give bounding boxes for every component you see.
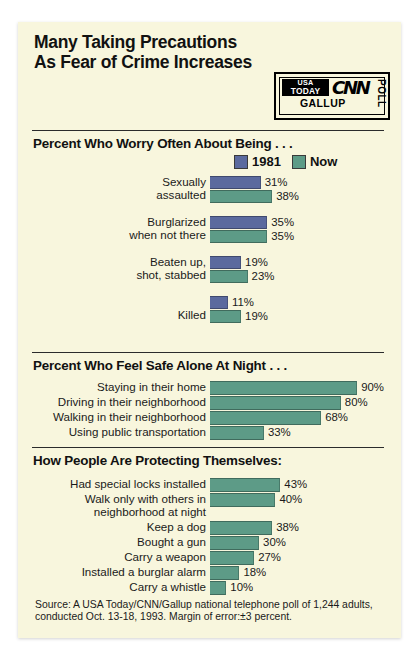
bar xyxy=(210,176,261,189)
bar-value: 80% xyxy=(345,396,368,408)
bar-label: Installed a burglar alarm xyxy=(16,566,206,579)
bar xyxy=(210,551,254,565)
legend-item-1981: 1981 xyxy=(234,154,281,169)
bar-label: Sexuallyassaulted xyxy=(16,176,206,201)
bar-label: Using public transportation xyxy=(16,426,206,439)
section-divider xyxy=(32,447,384,448)
usa-today-logo: USA TODAY xyxy=(282,79,329,96)
bar-label: Walk only with others inneighborhood at … xyxy=(16,493,206,518)
bar-value: 43% xyxy=(284,478,307,490)
poll-vertical-label: POLL xyxy=(373,77,387,110)
bar-value: 23% xyxy=(252,270,275,282)
bar-value: 31% xyxy=(265,176,288,188)
bar xyxy=(210,478,280,492)
bar-value: 33% xyxy=(268,426,291,438)
bar xyxy=(210,426,264,440)
bar-value: 30% xyxy=(263,536,286,548)
bar-label: Had special locks installed xyxy=(16,478,206,491)
source-note: Source: A USA Today/CNN/Gallup national … xyxy=(35,599,385,623)
section-heading-3: How People Are Protecting Themselves: xyxy=(33,453,282,468)
bar xyxy=(210,581,226,595)
infographic-panel: Many Taking PrecautionsAs Fear of Crime … xyxy=(18,22,401,638)
bar-value: 90% xyxy=(361,381,384,393)
bar-value: 11% xyxy=(232,296,254,308)
legend: 1981Now xyxy=(234,154,337,169)
cnn-logo: CNN xyxy=(332,77,369,98)
bar-label: Carry a whistle xyxy=(16,581,206,594)
bar-value: 27% xyxy=(258,551,281,563)
section-divider xyxy=(32,352,384,353)
bar-label: Walking in their neighborhood xyxy=(16,411,206,424)
legend-swatch-1981 xyxy=(234,155,248,169)
bar xyxy=(210,216,267,229)
bar-value: 68% xyxy=(325,411,348,423)
page-title: Many Taking PrecautionsAs Fear of Crime … xyxy=(34,32,324,72)
bar xyxy=(210,190,272,203)
bar-label: Keep a dog xyxy=(16,521,206,534)
bar-label: Burglarizedwhen not there xyxy=(16,216,206,241)
bar-label: Bought a gun xyxy=(16,536,206,549)
bar xyxy=(210,493,275,507)
bar-value: 40% xyxy=(279,493,302,505)
bar-value: 35% xyxy=(271,230,294,242)
bar xyxy=(210,566,239,580)
section-heading-1: Percent Who Worry Often About Being . . … xyxy=(33,136,293,151)
legend-label: Now xyxy=(310,154,337,169)
bar xyxy=(210,411,321,425)
bar-label: Staying in their home xyxy=(16,381,206,394)
bar-label: Killed xyxy=(16,309,206,322)
legend-item-Now: Now xyxy=(292,154,337,169)
section-heading-2: Percent Who Feel Safe Alone At Night . .… xyxy=(33,358,287,373)
usa-today-cnn-gallup-poll-logo: USA TODAY CNN GALLUP POLL xyxy=(274,72,390,120)
bar xyxy=(210,296,228,309)
legend-swatch-Now xyxy=(292,155,306,169)
legend-label: 1981 xyxy=(252,154,281,169)
bar xyxy=(210,536,259,550)
bar-value: 35% xyxy=(271,216,294,228)
bar xyxy=(210,396,341,410)
bar xyxy=(210,310,241,323)
bar xyxy=(210,230,267,243)
bar-label: Beaten up,shot, stabbed xyxy=(16,256,206,281)
bar xyxy=(210,521,272,535)
bar-value: 19% xyxy=(245,256,268,268)
bar-value: 38% xyxy=(276,190,299,202)
bar-value: 19% xyxy=(245,310,268,322)
bar xyxy=(210,381,357,395)
bar-value: 38% xyxy=(276,521,299,533)
bar xyxy=(210,270,248,283)
bar-value: 18% xyxy=(243,566,266,578)
bar-label: Carry a weapon xyxy=(16,551,206,564)
section-divider xyxy=(32,130,384,131)
bar-value: 10% xyxy=(230,581,253,593)
usa-today-line2: TODAY xyxy=(282,87,329,96)
gallup-logo: GALLUP xyxy=(300,97,346,109)
bar xyxy=(210,256,241,269)
bar-label: Driving in their neighborhood xyxy=(16,396,206,409)
